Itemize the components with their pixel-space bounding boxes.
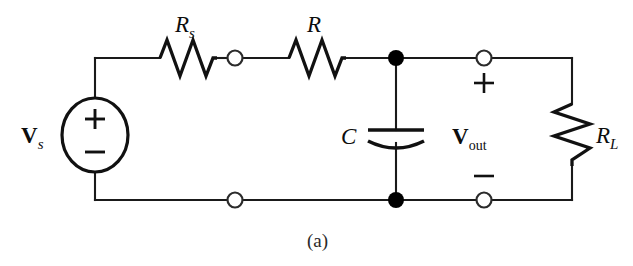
filter-resistance-symbol: R: [307, 12, 321, 37]
junction-dot-bottom: [388, 192, 404, 208]
terminal-output-minus[interactable]: [477, 193, 492, 208]
resistor-r-zigzag: [289, 40, 346, 76]
capacitance-label: C: [341, 125, 356, 153]
filter-resistance-label: R: [307, 13, 321, 41]
load-resistance-symbol: R: [596, 123, 610, 148]
circuit-figure: Vs Rs R C Vout RL (a): [0, 0, 633, 266]
output-voltage-symbol: V: [452, 124, 469, 149]
resistor-rs-zigzag: [160, 40, 217, 76]
output-voltage-subscript: out: [469, 138, 487, 153]
source-resistance-label: Rs: [175, 13, 195, 41]
terminal-bottom-left[interactable]: [228, 193, 243, 208]
junction-dot-top: [388, 50, 404, 66]
source-voltage-label: Vs: [21, 124, 43, 152]
source-voltage-subscript: s: [38, 136, 44, 152]
source-resistance-symbol: R: [175, 12, 189, 37]
terminal-output-plus[interactable]: [477, 51, 492, 66]
capacitance-symbol: C: [341, 124, 356, 149]
load-resistance-label: RL: [596, 124, 618, 152]
figure-caption: (a): [307, 231, 328, 250]
source-resistance-subscript: s: [189, 25, 195, 41]
output-voltage-label: Vout: [452, 125, 487, 153]
load-resistance-subscript: L: [610, 136, 618, 152]
resistor-rl-zigzag: [554, 104, 590, 166]
source-voltage-symbol: V: [21, 123, 38, 148]
terminal-top-left[interactable]: [228, 51, 243, 66]
